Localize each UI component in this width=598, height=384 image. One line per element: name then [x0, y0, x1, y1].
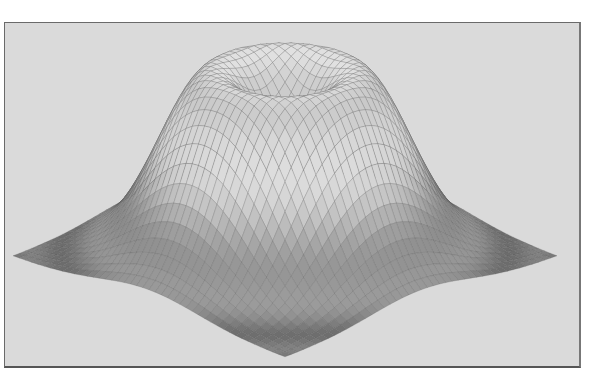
surface-mesh: [13, 43, 557, 357]
surface-plot-3d: [0, 0, 598, 384]
